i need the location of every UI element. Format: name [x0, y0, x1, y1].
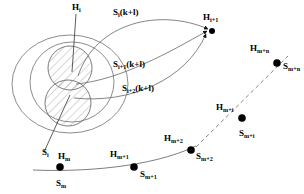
node-h-m-plus-2	[187, 146, 195, 154]
label-s-i-k-plus-l: Si(k+l)	[113, 8, 138, 17]
label-h-m: Hm	[58, 152, 70, 161]
label-s-i2-sub: i+2	[127, 87, 135, 94]
label-s-m-plus-1: Sm+1	[140, 170, 157, 179]
label-h-i-sub: i	[79, 6, 81, 13]
label-h-m-plus-n: Hm+n	[250, 44, 269, 53]
label-s-m: Sm	[56, 179, 66, 188]
label-s-i2-suffix: (k+l)	[135, 83, 154, 93]
label-h-m-sub: m	[65, 155, 70, 162]
label-s-m-plus-i-sub: m+i	[244, 132, 254, 139]
diagram-canvas: Hi Si(k+l) Si+1(k+l) Si+2(k+l) Hi+1 Hm+n…	[0, 0, 304, 194]
label-h-i-plus-1: Hi+1	[203, 13, 218, 22]
curve-s-i1-k-plus-l	[76, 31, 207, 84]
label-h-m-plus-2-sub: m+2	[171, 137, 183, 144]
node-h-m	[56, 163, 64, 171]
hatched-circle-lower	[45, 80, 91, 126]
label-h-i-plus-1-sub: i+1	[210, 16, 218, 23]
label-s-i-standalone-sub: i	[47, 151, 49, 158]
label-s-m-plus-i: Sm+i	[239, 129, 254, 138]
label-h-m-plus-i-sub: m+i	[223, 106, 233, 113]
label-h-m-plus-2: Hm+2	[164, 134, 183, 143]
label-s-i1-suffix: (k+l)	[126, 59, 145, 69]
label-s-m-plus-2: Sm+2	[196, 152, 213, 161]
label-h-m-plus-1-sub: m+1	[117, 153, 129, 160]
label-s-m-sub: m	[61, 182, 66, 189]
label-s-i1-k-plus-l: Si+1(k+l)	[113, 60, 145, 69]
label-s-i2-k-plus-l: Si+2(k+l)	[122, 84, 154, 93]
label-s-m-plus-n-sub: m+n	[288, 65, 300, 72]
node-h-m-plus-n	[273, 59, 281, 67]
label-s-i-sub: i	[118, 11, 120, 18]
label-s-i-suffix: (k+l)	[120, 7, 139, 17]
node-h-m-plus-i	[238, 114, 246, 122]
node-h-i-plus-1	[209, 28, 215, 34]
label-s-m-plus-n: Sm+n	[283, 62, 300, 71]
label-s-i1-sub: i+1	[118, 63, 126, 70]
label-h-m-plus-i: Hm+i	[216, 103, 233, 112]
node-h-m-plus-1	[130, 163, 138, 171]
label-s-m-plus-2-sub: m+2	[201, 155, 213, 162]
label-h-i: Hi	[72, 3, 81, 12]
label-h-m-plus-1: Hm+1	[110, 150, 129, 159]
diagram-svg	[0, 0, 304, 194]
label-s-m-plus-1-sub: m+1	[145, 173, 157, 180]
label-h-m-plus-n-sub: m+n	[257, 47, 269, 54]
label-s-i: Si	[42, 148, 49, 157]
